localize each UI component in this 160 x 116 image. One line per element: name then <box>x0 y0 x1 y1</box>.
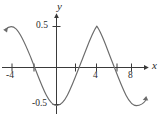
x-tick-label-minus-4: -4 <box>6 71 14 81</box>
x-tick-label-4: 4 <box>93 71 98 81</box>
plot-canvas <box>0 0 160 116</box>
y-tick-label-negative-half: -0.5 <box>32 99 47 109</box>
y-axis-label: y <box>57 1 62 12</box>
x-tick-label-8: 8 <box>128 71 133 81</box>
y-axis <box>53 14 61 114</box>
y-tick-label-positive-half: 0.5 <box>36 21 48 31</box>
curve-right-arrowhead <box>143 96 150 103</box>
curve-left-arrowhead <box>3 27 8 32</box>
graph-figure: y x 0.5 -0.5 -4 4 8 <box>0 0 160 116</box>
x-axis <box>2 64 148 72</box>
x-axis-label: x <box>152 60 157 71</box>
